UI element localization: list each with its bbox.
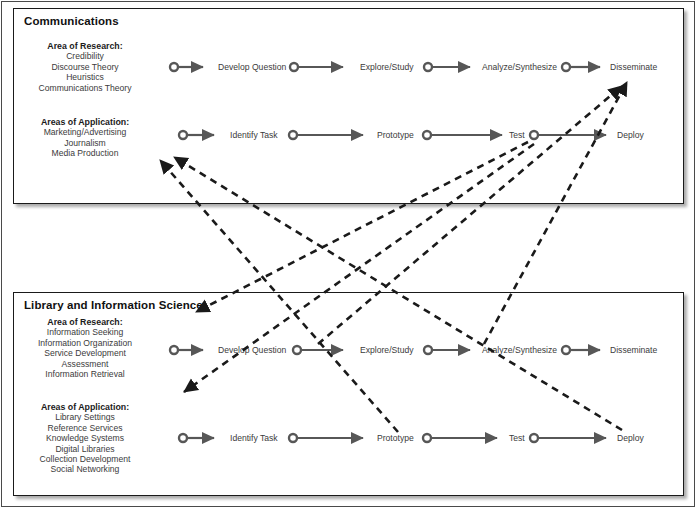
- cross-link-lis-prototype-to-communications-application: [160, 160, 398, 432]
- flow-node-circle: [424, 63, 432, 71]
- flow-label-analyze-synthesize: Analyze/Synthesize: [482, 62, 557, 72]
- flow-node-circle: [562, 346, 570, 354]
- cross-link-lis-deploy-to-communications-application: [174, 157, 622, 430]
- flow-label-deploy: Deploy: [617, 433, 644, 443]
- cross-link-lis-analyze-to-communications-disseminate: [484, 82, 627, 344]
- flow-label-disseminate: Disseminate: [610, 62, 658, 72]
- flow-node-circle: [290, 63, 298, 71]
- flow-label-develop-question: Develop Question: [218, 62, 287, 72]
- cross-link-communications-test-to-lis-title: [196, 142, 528, 312]
- flow-label-develop-question: Develop Question: [218, 345, 287, 355]
- flow-node-circle: [424, 346, 432, 354]
- flow-node-circle: [293, 346, 301, 354]
- flow-label-deploy: Deploy: [617, 130, 644, 140]
- flow-label-identify-task: Identify Task: [230, 130, 278, 140]
- flow-node-circle: [170, 346, 178, 354]
- cross-link-lis-develop-question-to-communications-disseminate: [318, 86, 622, 344]
- flow-label-disseminate: Disseminate: [610, 345, 658, 355]
- flow-label-test: Test: [509, 433, 525, 443]
- flow-node-circle: [423, 131, 431, 139]
- flow-label-identify-task: Identify Task: [230, 433, 278, 443]
- flow-label-test: Test: [509, 130, 525, 140]
- flow-label-prototype: Prototype: [377, 130, 414, 140]
- flow-label-prototype: Prototype: [377, 433, 414, 443]
- flow-node-circle: [289, 131, 297, 139]
- flow-label-analyze-synthesize: Analyze/Synthesize: [482, 345, 557, 355]
- flow-node-circle: [530, 131, 538, 139]
- diagram-root: Communications Area of Research: Credibi…: [0, 0, 698, 510]
- flow-node-circle: [423, 434, 431, 442]
- lis-application-flow: Identify Task Prototype Test Deploy: [179, 433, 644, 443]
- flow-label-explore-study: Explore/Study: [360, 345, 414, 355]
- flow-label-explore-study: Explore/Study: [360, 62, 414, 72]
- communications-application-flow: Identify Task Prototype Test Deploy: [179, 130, 644, 140]
- communications-research-flow: Develop Question Explore/Study Analyze/S…: [170, 62, 658, 72]
- flow-node-circle: [530, 434, 538, 442]
- flow-node-circle: [179, 131, 187, 139]
- flow-node-circle: [170, 63, 178, 71]
- flow-node-circle: [562, 63, 570, 71]
- flow-node-circle: [179, 434, 187, 442]
- flow-node-circle: [289, 434, 297, 442]
- flow-arrow-layer: Develop Question Explore/Study Analyze/S…: [0, 0, 698, 510]
